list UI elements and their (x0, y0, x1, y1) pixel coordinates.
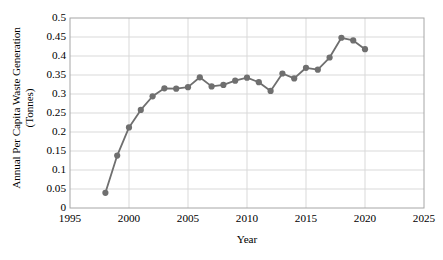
series-markers (102, 35, 368, 196)
x-axis-tick-label: 1995 (59, 213, 81, 224)
x-axis-tick-label: 2020 (354, 213, 376, 224)
data-point-marker (150, 93, 156, 99)
x-axis-tick-label: 2000 (118, 213, 140, 224)
data-point-marker (220, 82, 226, 88)
x-axis-tick-label: 2005 (177, 213, 199, 224)
data-point-marker (279, 70, 285, 76)
x-axis-tick-label: 2015 (295, 213, 317, 224)
data-point-marker (161, 85, 167, 91)
data-point-marker (268, 88, 274, 94)
data-point-marker (173, 86, 179, 92)
data-point-marker (315, 67, 321, 73)
data-point-marker (232, 78, 238, 84)
x-axis-title: Year (70, 233, 424, 245)
data-point-marker (303, 65, 309, 71)
x-axis-tick-label: 2010 (236, 213, 258, 224)
x-axis-tick-label: 2025 (413, 213, 435, 224)
data-point-marker (256, 79, 262, 85)
data-point-marker (338, 35, 344, 41)
data-point-marker (114, 152, 120, 158)
grid-lines (70, 18, 424, 208)
chart-container: Annual Per Capita Waste Generation (Tonn… (0, 0, 443, 260)
data-point-marker (197, 74, 203, 80)
data-point-marker (138, 107, 144, 113)
data-point-marker (291, 75, 297, 81)
data-point-marker (102, 190, 108, 196)
x-axis-tick-labels: 1995200020052010201520202025 (0, 213, 443, 229)
data-point-marker (244, 75, 250, 81)
data-point-marker (327, 54, 333, 60)
data-point-marker (362, 46, 368, 52)
data-point-marker (209, 83, 215, 89)
data-point-marker (185, 84, 191, 90)
data-point-marker (350, 37, 356, 43)
data-point-marker (126, 124, 132, 130)
